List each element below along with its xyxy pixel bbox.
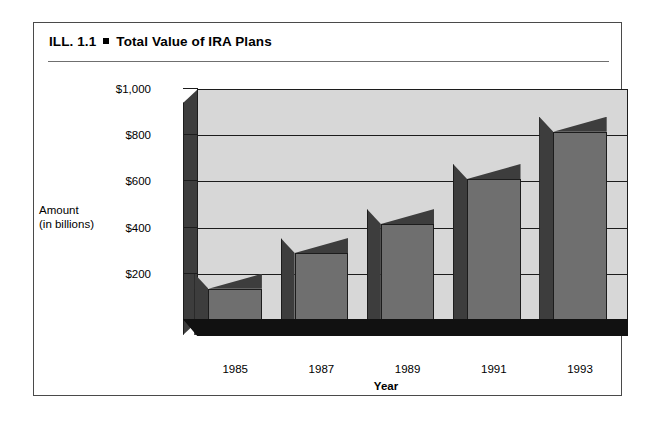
x-axis-tick-label: 1987 xyxy=(309,363,335,375)
y-axis-tick-label: $200 xyxy=(89,268,151,280)
bar xyxy=(381,224,434,335)
chart-floor xyxy=(183,319,628,336)
y-axis-tick-label: $400 xyxy=(89,222,151,234)
bar-front-face xyxy=(381,224,434,335)
bar xyxy=(553,132,606,335)
x-axis-tick-label: 1985 xyxy=(222,363,248,375)
bar xyxy=(467,179,520,335)
x-axis-tick-label: 1993 xyxy=(567,363,593,375)
x-axis-title: Year xyxy=(149,380,623,392)
bar-side-face xyxy=(367,209,381,335)
plot-3d xyxy=(149,73,623,363)
y-axis-tick-label: $1,000 xyxy=(89,83,151,95)
y-axis-ticks: $200$400$600$800$1,000 xyxy=(89,23,151,397)
bar-chart: Amount (in billions) $200$400$600$800$1,… xyxy=(34,23,623,397)
gridline-depth-edge xyxy=(183,74,198,89)
bar-front-face xyxy=(467,179,520,335)
gridline-depth-edge xyxy=(183,120,198,135)
gridline xyxy=(197,89,628,90)
gridline-depth-edge xyxy=(183,213,198,228)
gridline-depth-edge xyxy=(183,166,198,181)
illustration-frame: ILL. 1.1 Total Value of IRA Plans Amount… xyxy=(33,22,622,396)
bar-side-face xyxy=(539,117,553,335)
x-axis-tick-label: 1991 xyxy=(481,363,507,375)
gridline-depth-edge xyxy=(183,259,198,274)
x-axis-tick-label: 1989 xyxy=(395,363,421,375)
bar-front-face xyxy=(553,132,606,335)
bar-side-face xyxy=(453,164,467,335)
y-axis-tick-label: $800 xyxy=(89,129,151,141)
y-axis-tick-label: $600 xyxy=(89,175,151,187)
